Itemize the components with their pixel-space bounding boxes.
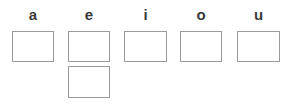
vowel-boxes-worksheet: a e i o u [0, 0, 283, 112]
column-label-e: e [68, 6, 110, 24]
answer-box-i-1[interactable] [124, 31, 167, 62]
column-a: a [12, 0, 54, 112]
answer-box-u-1[interactable] [237, 31, 280, 62]
answer-box-o-1[interactable] [180, 31, 222, 62]
answer-box-e-2[interactable] [68, 66, 110, 98]
answer-box-a-1[interactable] [12, 31, 54, 62]
column-o: o [180, 0, 222, 112]
column-label-u: u [237, 6, 280, 24]
answer-box-e-1[interactable] [68, 31, 110, 62]
column-u: u [237, 0, 280, 112]
column-i: i [124, 0, 167, 112]
column-label-i: i [124, 6, 167, 24]
column-label-o: o [180, 6, 222, 24]
column-e: e [68, 0, 110, 112]
column-label-a: a [12, 6, 54, 24]
